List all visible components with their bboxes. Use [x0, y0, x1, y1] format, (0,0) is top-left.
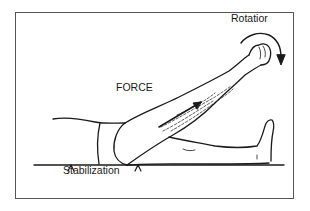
- torso-outline: [53, 118, 125, 123]
- force-arrow-icon: [159, 102, 201, 127]
- knee-crease: [183, 149, 195, 151]
- force-label: FORCE: [116, 82, 153, 93]
- rotation-label: Rotatior: [231, 13, 268, 24]
- leg-raise-illustration: [16, 13, 294, 199]
- raised-toes: [259, 46, 265, 59]
- rotation-arrow-icon: [241, 33, 285, 65]
- stabilization-label: Stabilization: [63, 165, 120, 176]
- resting-leg-top-contour: [169, 120, 274, 161]
- figure: Rotatior FORCE Stabilization: [0, 0, 310, 211]
- raised-foot: [249, 44, 271, 65]
- stabilization-marker-right-icon: [135, 165, 141, 171]
- shorts-left-edge: [98, 123, 100, 164]
- shorts-right-edge: [114, 123, 127, 165]
- figure-frame: [15, 12, 294, 199]
